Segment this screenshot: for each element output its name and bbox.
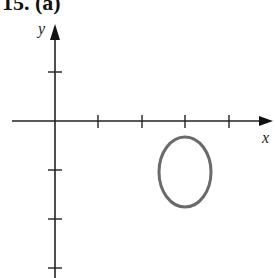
y-axis-label: y xyxy=(38,20,45,38)
ellipse-shape xyxy=(159,137,211,207)
x-axis-label: x xyxy=(262,129,269,147)
y-axis-arrow-icon xyxy=(50,24,60,40)
coordinate-plane xyxy=(0,0,275,278)
x-axis-arrow-icon xyxy=(259,116,273,126)
